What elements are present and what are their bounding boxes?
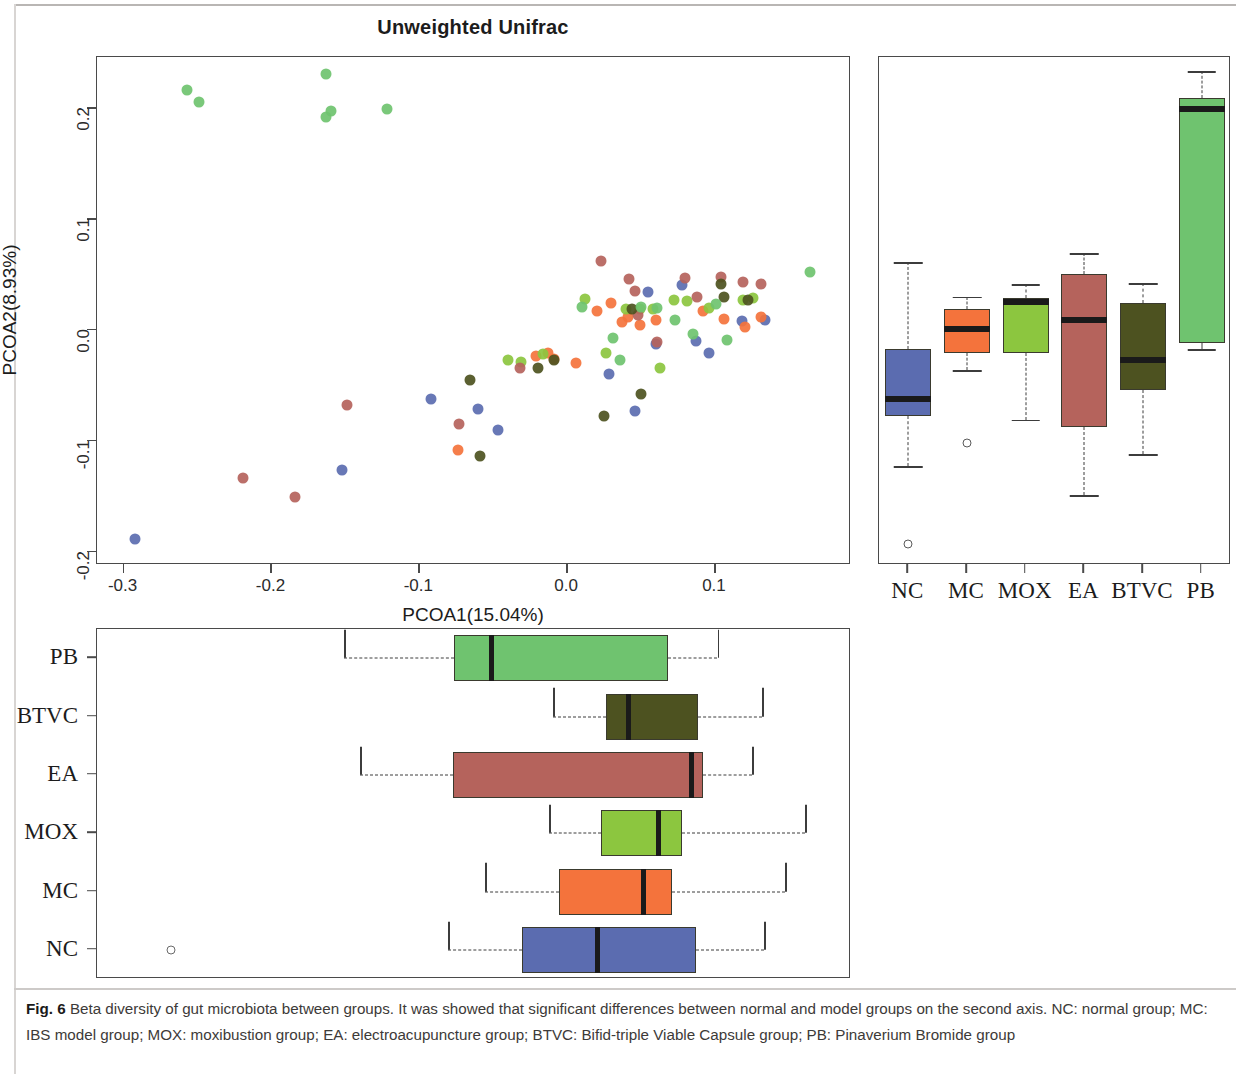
scatter-point-mc: [606, 298, 617, 309]
vertical-box-nc: [885, 349, 931, 417]
horizontal-whisker-cap-low: [553, 688, 555, 717]
horizontal-whisker-cap-high: [764, 921, 766, 950]
vertical-whisker-cap-upper: [1187, 71, 1216, 73]
vertical-whisker-upper: [1143, 283, 1144, 303]
vertical-whisker-upper: [1025, 284, 1026, 297]
vertical-category-tick: [1200, 564, 1202, 573]
scatter-point-ea: [238, 473, 249, 484]
scatter-point-btvc: [548, 354, 559, 365]
horizontal-median-line: [656, 810, 661, 856]
horizontal-whisker-cap-high: [718, 630, 720, 659]
horizontal-box-nc: [522, 927, 696, 973]
horizontal-whisker-high: [698, 716, 762, 717]
scatter-point-btvc: [636, 389, 647, 400]
scatter-x-tick: [418, 564, 420, 573]
scatter-point-mc: [755, 311, 766, 322]
vertical-whisker-upper: [1084, 253, 1085, 274]
vertical-outlier-point: [963, 438, 972, 447]
scatter-point-nc: [337, 464, 348, 475]
vertical-median-line: [944, 326, 990, 332]
scatter-y-tick-label: -0.2: [74, 551, 94, 580]
horizontal-category-tick: [87, 831, 96, 833]
vertical-whisker-upper: [1201, 71, 1202, 98]
vertical-whisker-cap-upper: [1070, 253, 1099, 255]
scatter-point-btvc: [715, 279, 726, 290]
scatter-point-pb: [652, 302, 663, 313]
scatter-point-pb: [636, 301, 647, 312]
horizontal-category-label-pb: PB: [50, 644, 78, 670]
scatter-x-tick: [566, 564, 568, 573]
horizontal-category-label-nc: NC: [46, 936, 78, 962]
horizontal-outlier-point: [167, 945, 176, 954]
scatter-point-mc: [718, 313, 729, 324]
vertical-whisker-lower: [967, 353, 968, 370]
scatter-point-nc: [643, 287, 654, 298]
horizontal-category-tick: [87, 890, 96, 892]
horizontal-whisker-cap-low: [549, 805, 551, 834]
scatter-point-ea: [624, 273, 635, 284]
horizontal-median-line: [489, 635, 494, 681]
scatter-point-ea: [630, 286, 641, 297]
scatter-point-btvc: [464, 374, 475, 385]
scatter-point-mox: [655, 362, 666, 373]
scatter-point-ea: [652, 337, 663, 348]
vertical-outlier-point: [904, 539, 913, 548]
scatter-x-tick: [270, 564, 272, 573]
horizontal-median-line: [595, 927, 600, 973]
scatter-point-pb: [804, 267, 815, 278]
scatter-point-ea: [290, 492, 301, 503]
vertical-box-ea: [1061, 274, 1107, 427]
scatter-point-pb: [607, 332, 618, 343]
horizontal-box-mox: [601, 810, 681, 856]
scatter-point-ea: [341, 400, 352, 411]
horizontal-median-line: [641, 869, 646, 915]
scatter-x-tick: [123, 564, 125, 573]
scatter-point-ea: [596, 256, 607, 267]
vertical-whisker-lower: [1143, 390, 1144, 454]
scatter-point-pb: [381, 104, 392, 115]
scatter-x-axis-label: PCOA1(15.04%): [96, 604, 850, 626]
scatter-point-mc: [591, 306, 602, 317]
vertical-box-pb: [1179, 98, 1225, 343]
horizontal-category-tick: [87, 715, 96, 717]
scatter-point-mox: [681, 296, 692, 307]
horizontal-whisker-low: [360, 774, 453, 775]
vertical-category-label-ea: EA: [1068, 578, 1099, 604]
scatter-x-tick: [714, 564, 716, 573]
scatter-y-tick-label: 0.2: [74, 107, 94, 131]
scatter-point-mc: [634, 320, 645, 331]
horizontal-median-line: [689, 752, 694, 798]
scatter-point-mox: [668, 294, 679, 305]
horizontal-whisker-cap-high: [752, 746, 754, 775]
scatter-point-btvc: [474, 451, 485, 462]
horizontal-category-label-mc: MC: [42, 878, 78, 904]
vertical-box-btvc: [1120, 303, 1166, 390]
page-rule-top: [14, 4, 1236, 6]
scatter-point-mox: [503, 354, 514, 365]
scatter-point-nc: [603, 369, 614, 380]
vertical-category-tick: [1083, 564, 1085, 573]
horizontal-whisker-low: [448, 949, 522, 950]
horizontal-box-ea: [453, 752, 703, 798]
horizontal-whisker-cap-low: [448, 921, 450, 950]
scatter-point-pb: [321, 68, 332, 79]
horizontal-whisker-low: [344, 658, 454, 659]
scatter-point-pb: [687, 329, 698, 340]
vertical-box-mox: [1003, 298, 1049, 353]
horizontal-median-line: [626, 694, 631, 740]
horizontal-category-label-ea: EA: [47, 761, 78, 787]
scatter-point-mc: [650, 314, 661, 325]
scatter-x-tick-label: 0.1: [702, 576, 726, 596]
vertical-whisker-cap-lower: [953, 370, 982, 372]
vertical-category-label-mox: MOX: [998, 578, 1052, 604]
horizontal-whisker-cap-high: [785, 863, 787, 892]
horizontal-category-label-btvc: BTVC: [17, 703, 78, 729]
horizontal-category-tick: [87, 656, 96, 658]
vertical-whisker-upper: [908, 262, 909, 349]
horizontal-whisker-high: [668, 658, 717, 659]
horizontal-boxplot-panel: [96, 628, 850, 978]
vertical-category-tick: [965, 564, 967, 573]
horizontal-whisker-high: [696, 949, 764, 950]
vertical-whisker-lower: [908, 416, 909, 466]
scatter-point-ea: [454, 419, 465, 430]
